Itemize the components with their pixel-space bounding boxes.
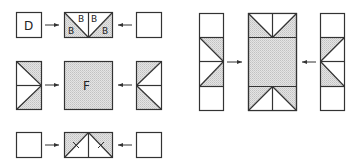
svg-text:B: B	[91, 14, 97, 24]
piece-bottom-combined	[65, 133, 113, 158]
tile-assembly-diagram: D B B B B F	[0, 0, 363, 167]
center-piece	[249, 14, 297, 111]
piece-empty-bottom-left	[17, 133, 42, 158]
piece-f: F	[65, 62, 113, 110]
column-left	[200, 14, 224, 111]
piece-empty-top-right	[137, 13, 162, 38]
label-d: D	[24, 19, 33, 33]
piece-left-triangles	[17, 62, 42, 110]
svg-text:B: B	[102, 26, 108, 36]
piece-empty-bottom-right	[137, 133, 162, 158]
svg-text:B: B	[78, 14, 84, 24]
piece-d: D	[17, 13, 42, 38]
label-f: F	[83, 79, 90, 93]
svg-text:B: B	[68, 26, 74, 36]
piece-b-combined: B B B B	[65, 13, 113, 38]
piece-right-triangles	[137, 62, 162, 110]
column-right	[321, 14, 345, 111]
